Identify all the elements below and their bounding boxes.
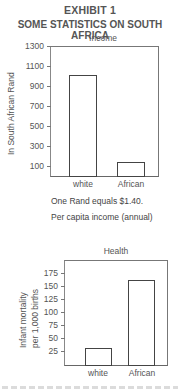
x-label-white: white xyxy=(78,368,118,378)
y-tick: 50 xyxy=(28,333,58,343)
y-tick: 1100 xyxy=(14,61,44,71)
y-tick: 100 xyxy=(28,307,58,317)
y-tick: 150 xyxy=(28,281,58,291)
y-tick: 900 xyxy=(14,81,44,91)
y-tick: 25 xyxy=(28,346,58,356)
exhibit-label: EXHIBIT 1 xyxy=(0,4,180,16)
y-tick: 300 xyxy=(14,141,44,151)
income-plot-frame xyxy=(50,46,159,177)
currency-note: One Rand equals $1.40. xyxy=(51,196,143,206)
bar-african-income xyxy=(117,162,145,177)
x-label-african: African xyxy=(111,179,151,189)
cropped-text-line xyxy=(2,386,178,389)
y-tick: 125 xyxy=(28,294,58,304)
bar-white-health xyxy=(85,348,112,366)
y-tick: 500 xyxy=(14,121,44,131)
y-tick: 100 xyxy=(14,161,44,171)
bar-white-income xyxy=(69,75,97,177)
x-label-white: white xyxy=(63,179,103,189)
y-tick: 75 xyxy=(28,320,58,330)
y-tick: 1300 xyxy=(14,41,44,51)
bar-african-health xyxy=(128,280,155,366)
income-chart-title: Income xyxy=(48,33,158,43)
x-label-african: African xyxy=(122,368,162,378)
health-y-axis-label-line1: Infant mortality xyxy=(18,292,28,348)
health-chart-title: Health xyxy=(64,246,168,256)
y-tick: 700 xyxy=(14,101,44,111)
income-caption: Per capita income (annual) xyxy=(51,212,153,222)
y-tick: 175 xyxy=(28,268,58,278)
